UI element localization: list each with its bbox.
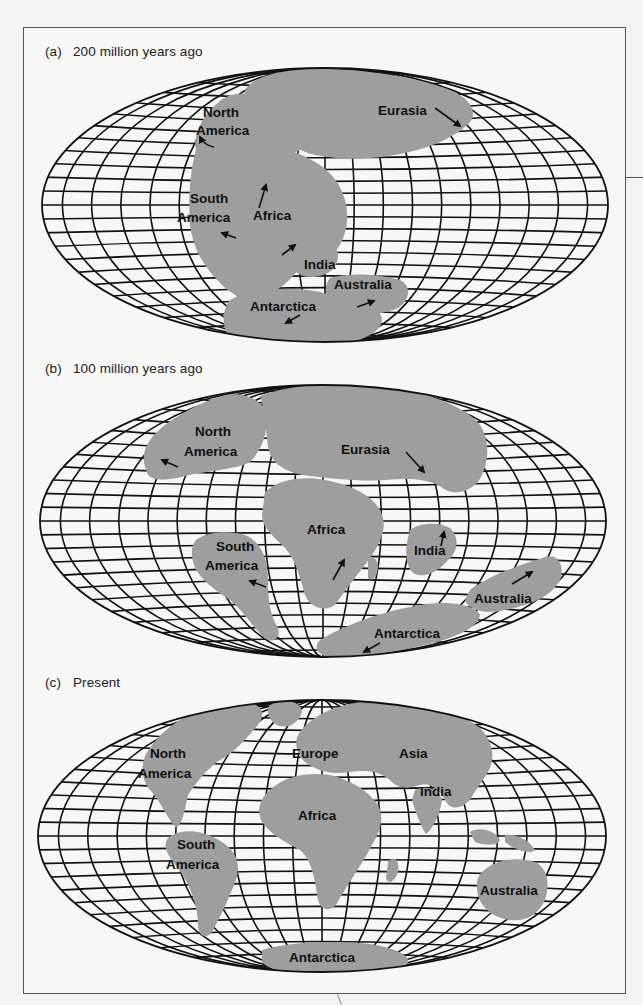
continent-label: Africa	[307, 522, 346, 537]
continent-label: Australia	[334, 277, 392, 292]
continent-label: Asia	[399, 746, 428, 761]
continent-label: Africa	[298, 808, 337, 823]
continent-label: Antarctica	[374, 626, 441, 641]
continent-label: North	[150, 746, 186, 761]
map-200-million-years-ago: NorthAmericaEurasiaSouthAmericaAfricaInd…	[42, 52, 608, 359]
map-present: NorthAmericaEuropeAsiaIndiaAfricaSouthAm…	[38, 684, 606, 988]
continent-label: Antarctica	[289, 950, 356, 965]
continent-label: America	[138, 766, 192, 781]
continent-label: Eurasia	[378, 103, 427, 118]
continent-label: America	[177, 210, 231, 225]
continent-label: America	[166, 857, 220, 872]
map-100-million-years-ago: NorthAmericaEurasiaAfricaSouthAmericaInd…	[40, 369, 606, 673]
continent-label: America	[205, 558, 259, 573]
continent-label: America	[184, 444, 238, 459]
land-africa-b	[262, 478, 384, 608]
continent-label: South	[190, 191, 228, 206]
continent-label: South	[216, 539, 254, 554]
continent-label: Australia	[474, 591, 532, 606]
continent-label: Australia	[480, 883, 538, 898]
continent-label: Eurasia	[341, 442, 390, 457]
maps-canvas: NorthAmericaEurasiaSouthAmericaAfricaInd…	[0, 0, 643, 1005]
continent-label: North	[195, 424, 231, 439]
continent-label: India	[414, 543, 446, 558]
continent-label: Antarctica	[250, 299, 317, 314]
land-madagascar-c	[386, 859, 398, 882]
continent-label: South	[177, 837, 215, 852]
continent-label: America	[196, 123, 250, 138]
continent-label: North	[203, 105, 239, 120]
continent-label: Europe	[292, 746, 339, 761]
continent-label: Africa	[253, 208, 292, 223]
land-africa-c	[259, 774, 381, 909]
continent-label: India	[420, 784, 452, 799]
continent-label: India	[304, 257, 336, 272]
